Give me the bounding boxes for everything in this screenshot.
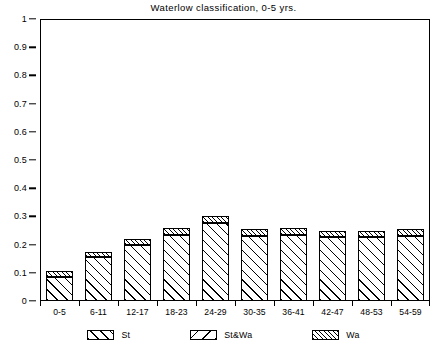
bar-segment-st[interactable]	[280, 235, 307, 301]
bar-segment-st[interactable]	[163, 235, 190, 301]
x-tick-label: 6-11	[90, 307, 107, 317]
y-tick-label: 0.3	[14, 211, 27, 221]
x-tick-label: 12-17	[126, 307, 148, 317]
chart-title: Waterlow classification, 0-5 yrs.	[0, 2, 447, 13]
x-tick-mark	[429, 301, 430, 306]
legend-swatch-icon	[312, 330, 339, 340]
y-tick-label: 1	[22, 14, 27, 24]
bar-segment-wa[interactable]	[397, 229, 424, 235]
y-tick-mark	[29, 187, 36, 188]
x-tick-mark	[235, 301, 236, 306]
bar-segment-wa[interactable]	[202, 216, 229, 222]
y-tick-label: 0.5	[14, 155, 27, 165]
bar-segment-wa[interactable]	[241, 229, 268, 235]
y-tick-mark	[29, 18, 36, 19]
y-tick-label: 0.7	[14, 99, 27, 109]
legend-label: St	[121, 330, 130, 340]
bar-segment-st[interactable]	[397, 236, 424, 301]
y-tick-label: 0.8	[14, 70, 27, 80]
x-tick-label: 36-41	[282, 307, 304, 317]
legend-item-st[interactable]: St	[87, 330, 130, 340]
bar-group[interactable]	[280, 228, 307, 301]
y-tick-mark	[29, 300, 36, 301]
y-tick-label: 0	[22, 296, 27, 306]
x-tick-mark	[352, 301, 353, 306]
legend-label: St&Wa	[224, 330, 252, 340]
chart-legend: StSt&WaWa	[0, 326, 447, 344]
x-tick-label: 42-47	[321, 307, 343, 317]
x-tick-mark	[40, 301, 41, 306]
y-tick-mark	[29, 131, 36, 132]
y-tick-mark	[29, 216, 36, 217]
x-tick-mark	[157, 301, 158, 306]
bar-segment-st[interactable]	[124, 245, 151, 301]
bar-segment-st[interactable]	[358, 237, 385, 301]
bar-segment-st[interactable]	[241, 236, 268, 301]
bar-group[interactable]	[397, 229, 424, 301]
x-tick-label: 18-23	[165, 307, 187, 317]
x-tick-mark	[274, 301, 275, 306]
x-tick-label: 30-35	[243, 307, 265, 317]
bar-segment-wa[interactable]	[124, 239, 151, 245]
legend-swatch-icon	[190, 330, 217, 340]
y-tick-label: 0.2	[14, 240, 27, 250]
y-tick-label: 0.9	[14, 42, 27, 52]
bar-segment-wa[interactable]	[46, 271, 73, 277]
bar-segment-st[interactable]	[46, 277, 73, 301]
bar-segment-st[interactable]	[85, 257, 112, 301]
bar-group[interactable]	[241, 229, 268, 301]
y-tick-mark	[29, 103, 36, 104]
bar-group[interactable]	[124, 239, 151, 301]
y-tick-mark	[29, 244, 36, 245]
bar-group[interactable]	[358, 231, 385, 302]
bar-segment-wa[interactable]	[358, 231, 385, 237]
legend-label: Wa	[346, 330, 359, 340]
bar-segment-wa[interactable]	[280, 228, 307, 234]
bar-segment-wa[interactable]	[319, 231, 346, 237]
bar-segment-wa[interactable]	[85, 252, 112, 258]
bar-segment-st[interactable]	[202, 223, 229, 301]
y-axis: 00.10.20.30.40.50.60.70.80.91	[0, 0, 40, 348]
x-tick-mark	[196, 301, 197, 306]
legend-item-standwa[interactable]: St&Wa	[190, 330, 252, 340]
bar-group[interactable]	[85, 252, 112, 301]
y-tick-mark	[29, 75, 36, 76]
y-tick-mark	[29, 46, 36, 47]
y-tick-mark	[29, 272, 36, 273]
bar-group[interactable]	[163, 228, 190, 301]
x-tick-mark	[79, 301, 80, 306]
bar-segment-st[interactable]	[319, 237, 346, 301]
x-tick-mark	[391, 301, 392, 306]
bars-layer	[40, 19, 430, 301]
x-axis: 0-56-1112-1718-2324-2930-3536-4142-4748-…	[40, 307, 430, 321]
y-tick-label: 0.4	[14, 183, 27, 193]
bar-group[interactable]	[202, 216, 229, 301]
y-tick-label: 0.6	[14, 127, 27, 137]
x-tick-label: 48-53	[360, 307, 382, 317]
legend-swatch-icon	[87, 330, 114, 340]
legend-item-wa[interactable]: Wa	[312, 330, 359, 340]
x-tick-mark	[118, 301, 119, 306]
y-tick-mark	[29, 159, 36, 160]
x-tick-label: 54-59	[399, 307, 421, 317]
bar-group[interactable]	[319, 231, 346, 302]
x-tick-label: 24-29	[204, 307, 226, 317]
chart-container: Waterlow classification, 0-5 yrs. 00.10.…	[0, 0, 447, 348]
y-tick-label: 0.1	[14, 268, 27, 278]
x-tick-mark	[313, 301, 314, 306]
bar-group[interactable]	[46, 271, 73, 301]
x-tick-label: 0-5	[53, 307, 66, 317]
bar-segment-wa[interactable]	[163, 228, 190, 236]
